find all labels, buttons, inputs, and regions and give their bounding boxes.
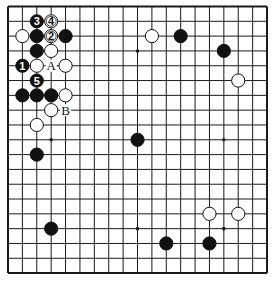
black-stone: 1: [16, 59, 29, 72]
marker-label: A: [46, 58, 57, 73]
black-stone: [30, 44, 43, 57]
stones: 34215: [16, 15, 245, 250]
black-stone: [131, 133, 144, 146]
white-stone: [59, 89, 72, 102]
white-stone: [30, 118, 43, 131]
black-stone: [59, 30, 72, 43]
white-stone: [232, 207, 245, 220]
marker-text: A: [46, 58, 56, 73]
white-stone: [30, 59, 43, 72]
white-stone: [59, 59, 72, 72]
move-number: 5: [34, 75, 40, 87]
white-stone: 4: [45, 15, 58, 28]
white-stone: [45, 104, 58, 117]
black-stone: [30, 148, 43, 161]
marker-label: B: [60, 103, 71, 118]
go-board: AB 34215: [0, 0, 274, 281]
go-board-diagram: AB 34215: [0, 0, 274, 281]
black-stone: [30, 89, 43, 102]
star-point: [49, 138, 53, 142]
move-number: 4: [48, 15, 55, 27]
white-stone: [16, 30, 29, 43]
black-stone: 3: [30, 15, 43, 28]
white-stone: 2: [45, 30, 58, 43]
black-stone: 5: [30, 74, 43, 87]
star-point: [136, 49, 140, 53]
black-stone: [16, 89, 29, 102]
white-stone: [232, 74, 245, 87]
white-stone: [145, 30, 158, 43]
black-stone: [160, 237, 173, 250]
move-number: 2: [48, 30, 54, 42]
star-point: [136, 227, 140, 231]
black-stone: [45, 89, 58, 102]
white-stone: [45, 44, 58, 57]
marker-text: B: [61, 103, 70, 118]
star-point: [222, 138, 226, 142]
star-point: [222, 227, 226, 231]
move-number: 1: [19, 60, 25, 72]
move-number: 3: [34, 15, 40, 27]
black-stone: [30, 30, 43, 43]
black-stone: [203, 237, 216, 250]
black-stone: [217, 44, 230, 57]
white-stone: [203, 207, 216, 220]
black-stone: [174, 30, 187, 43]
black-stone: [45, 222, 58, 235]
